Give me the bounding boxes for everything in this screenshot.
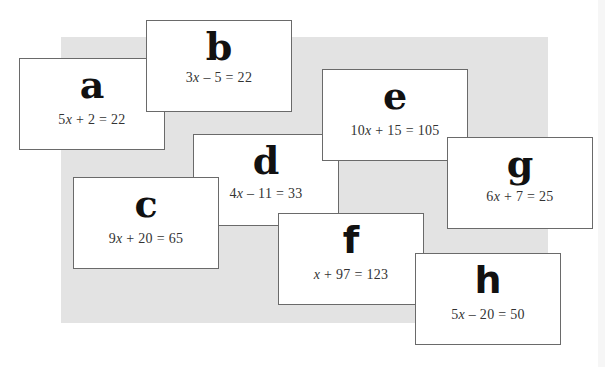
card-letter: b <box>147 25 291 69</box>
card-equation: 3x – 5 = 22 <box>147 69 291 87</box>
card-equation: x + 97 = 123 <box>279 266 423 284</box>
card-g[interactable]: g 6x + 7 = 25 <box>447 137 593 229</box>
card-a[interactable]: a 5x + 2 = 22 <box>19 58 165 150</box>
card-h[interactable]: h 5x – 20 = 50 <box>415 253 561 345</box>
card-equation: 5x + 2 = 22 <box>20 111 164 129</box>
card-equation: 9x + 20 = 65 <box>74 230 218 248</box>
card-letter: e <box>323 74 467 118</box>
card-letter: h <box>416 258 560 302</box>
right-edge-strip <box>598 0 605 367</box>
card-f[interactable]: f x + 97 = 123 <box>278 213 424 305</box>
card-letter: g <box>448 142 592 186</box>
card-letter: c <box>74 182 218 226</box>
card-equation: 6x + 7 = 25 <box>448 188 592 206</box>
card-letter: f <box>279 218 423 262</box>
card-equation: 10x + 15 = 105 <box>323 122 467 140</box>
card-letter: a <box>20 63 164 107</box>
card-b[interactable]: b 3x – 5 = 22 <box>146 20 292 112</box>
card-c[interactable]: c 9x + 20 = 65 <box>73 177 219 269</box>
card-equation: 5x – 20 = 50 <box>416 306 560 324</box>
